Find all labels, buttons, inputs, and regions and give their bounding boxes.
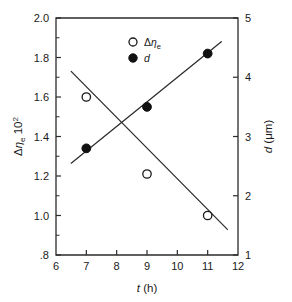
right-tick-label: 2 xyxy=(245,190,251,202)
left-tick-label: 2.0 xyxy=(34,12,49,24)
legend-label-delta-eta: Δηe xyxy=(144,36,161,51)
left-axis-ticks: .81.01.21.41.61.82.0 xyxy=(34,12,61,261)
left-tick-label: 1.0 xyxy=(34,210,49,222)
x-tick-label: 10 xyxy=(171,260,183,272)
right-tick-label: 5 xyxy=(245,12,251,24)
right-axis-title: d (μm) xyxy=(262,120,274,154)
right-tick-label: 3 xyxy=(245,131,251,143)
data-point-d xyxy=(203,49,212,58)
x-tick-label: 7 xyxy=(83,260,89,272)
left-axis-title: Δηe 102 xyxy=(11,116,27,156)
legend-marker-open-circle xyxy=(129,38,137,46)
x-tick-label: 11 xyxy=(202,260,213,272)
data-point-delta-eta xyxy=(143,170,151,178)
x-tick-label: 9 xyxy=(144,260,150,272)
left-tick-label: .8 xyxy=(40,249,49,261)
x-tick-label: 8 xyxy=(114,260,120,272)
left-tick-label: 1.2 xyxy=(34,170,49,182)
x-tick-label: 6 xyxy=(53,260,59,272)
data-point-d xyxy=(143,102,152,111)
data-point-delta-eta xyxy=(203,211,211,219)
left-tick-label: 1.6 xyxy=(34,91,49,103)
right-axis-ticks: 12345 xyxy=(233,12,251,261)
data-point-delta-eta xyxy=(82,93,90,101)
chart-legend: Δηed xyxy=(129,36,161,64)
scatter-plot: 6789101112 .81.01.21.41.61.82.0 12345 Δη… xyxy=(0,0,292,302)
x-axis-ticks: 6789101112 xyxy=(53,250,244,272)
trend-line-delta-eta xyxy=(71,71,227,229)
x-tick-label: 12 xyxy=(232,260,244,272)
legend-marker-filled-circle xyxy=(129,54,137,62)
right-tick-label: 4 xyxy=(245,71,251,83)
legend-label-d: d xyxy=(144,52,151,64)
x-axis-title: t (h) xyxy=(137,282,158,294)
right-tick-label: 1 xyxy=(245,249,251,261)
left-tick-label: 1.8 xyxy=(34,52,49,64)
chart-figure: 6789101112 .81.01.21.41.61.82.0 12345 Δη… xyxy=(0,0,292,302)
data-point-d xyxy=(82,144,91,153)
left-tick-label: 1.4 xyxy=(34,131,49,143)
trend-lines xyxy=(71,42,227,230)
